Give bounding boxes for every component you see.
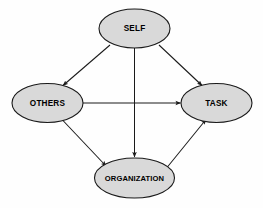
node-others-label: OTHERS <box>30 99 66 108</box>
node-task[interactable]: TASK <box>181 84 252 123</box>
edge-self-to-task <box>159 45 202 86</box>
node-self[interactable]: SELF <box>99 9 170 48</box>
node-self-label: SELF <box>124 24 146 33</box>
diagram-canvas: SELF OTHERS TASK ORGANIZATION <box>0 0 263 208</box>
node-organization[interactable]: ORGANIZATION <box>95 158 175 198</box>
node-organization-label: ORGANIZATION <box>105 174 164 183</box>
edge-self-to-others <box>63 45 110 86</box>
relationship-diagram: SELF OTHERS TASK ORGANIZATION <box>0 0 263 208</box>
edge-others-to-organization <box>62 120 106 167</box>
edge-organization-to-task <box>167 120 206 168</box>
node-task-label: TASK <box>205 99 227 108</box>
node-others[interactable]: OTHERS <box>12 84 83 123</box>
